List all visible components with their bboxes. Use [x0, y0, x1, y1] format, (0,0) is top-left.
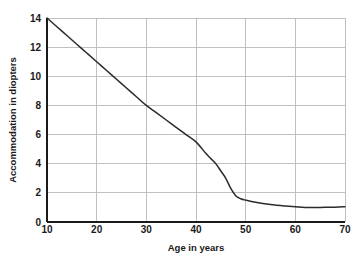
y-tick-label-6: 6 — [35, 129, 41, 140]
y-tick-label-10: 10 — [30, 71, 42, 82]
x-tick-label-10: 10 — [41, 224, 53, 235]
y-tick-label-14: 14 — [30, 13, 42, 24]
x-axis-title: Age in years — [168, 242, 225, 253]
x-tick-label-50: 50 — [240, 224, 252, 235]
x-tick-label-60: 60 — [290, 224, 302, 235]
y-tick-label-8: 8 — [35, 100, 41, 111]
accommodation-vs-age-chart: 02468101214 10203040506070 Age in years … — [0, 0, 361, 266]
y-tick-label-12: 12 — [30, 42, 42, 53]
chart-background — [0, 0, 361, 266]
x-tick-label-70: 70 — [339, 224, 351, 235]
chart-canvas: 02468101214 10203040506070 Age in years … — [0, 0, 361, 266]
x-tick-label-20: 20 — [91, 224, 103, 235]
x-tick-label-40: 40 — [190, 224, 202, 235]
y-tick-label-2: 2 — [35, 187, 41, 198]
y-axis-title: Accommodation in diopters — [7, 57, 18, 183]
y-tick-label-4: 4 — [35, 158, 41, 169]
x-tick-label-30: 30 — [141, 224, 153, 235]
